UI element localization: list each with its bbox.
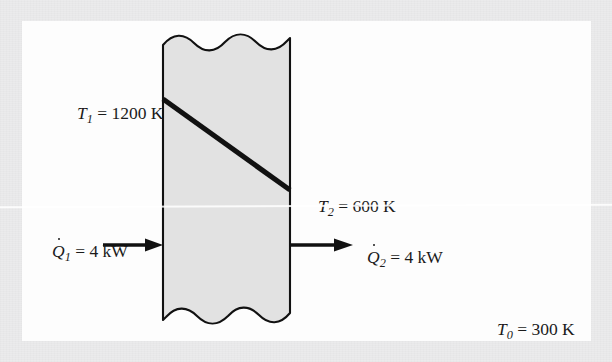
figure-canvas: T1 = 1200 K T2 = 600 K Q1 = 4 kW Q2 = 4 …	[22, 21, 591, 341]
t1-value: 1200	[111, 103, 146, 123]
label-q1: Q1 = 4 kW	[52, 243, 128, 263]
label-t0: T0 = 300 K	[497, 321, 575, 341]
q2-symbol: Q	[367, 249, 380, 267]
t2-subscript: 2	[328, 205, 334, 219]
label-t2: T2 = 600 K	[318, 198, 396, 218]
t1-subscript: 1	[87, 112, 93, 126]
t2-symbol: T	[318, 196, 328, 216]
figure-page: T1 = 1200 K T2 = 600 K Q1 = 4 kW Q2 = 4 …	[0, 0, 612, 362]
t2-value: 600	[352, 196, 378, 216]
q1-equals: =	[75, 241, 85, 261]
t2-unit: K	[383, 196, 396, 216]
label-q2: Q2 = 4 kW	[367, 249, 443, 269]
t1-equals: =	[97, 103, 107, 123]
q2-value: 4	[404, 247, 413, 267]
t2-equals: =	[338, 196, 348, 216]
q1-subscript: 1	[65, 250, 71, 264]
t0-symbol: T	[497, 319, 507, 339]
q1-unit: kW	[103, 241, 128, 261]
wall-heat-transfer-drawing	[22, 21, 591, 341]
q1-value: 4	[89, 241, 98, 261]
heat-out-arrow	[290, 239, 353, 252]
q2-equals: =	[390, 247, 400, 267]
q1-symbol: Q	[52, 243, 65, 261]
q2-unit: kW	[418, 247, 443, 267]
t0-equals: =	[517, 319, 527, 339]
t0-unit: K	[562, 319, 575, 339]
t0-subscript: 0	[507, 328, 513, 342]
t1-symbol: T	[77, 103, 87, 123]
q2-subscript: 2	[380, 256, 386, 270]
t0-value: 300	[531, 319, 557, 339]
t1-unit: K	[151, 103, 164, 123]
label-t1: T1 = 1200 K	[77, 105, 164, 125]
